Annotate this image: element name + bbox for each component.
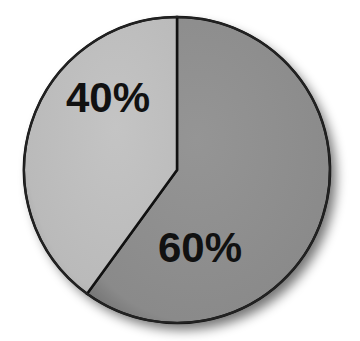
- label-40-percent: 40%: [66, 74, 150, 121]
- pie-chart: 40% 60%: [0, 0, 360, 341]
- label-60-percent: 60%: [158, 224, 242, 271]
